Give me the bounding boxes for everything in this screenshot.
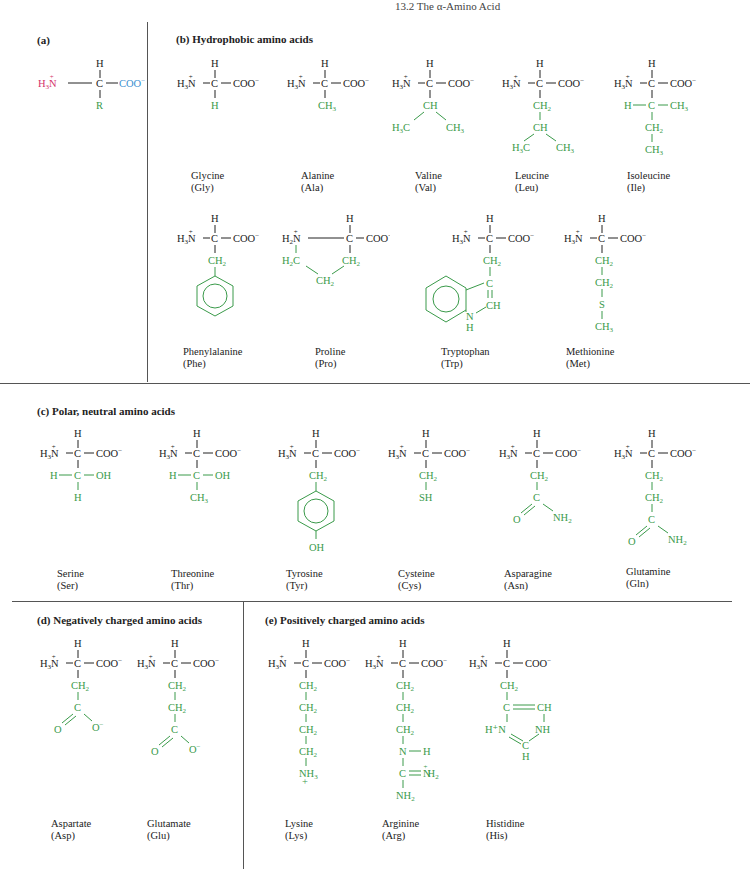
threonine-label: Threonine(Thr) <box>171 568 214 592</box>
svg-text:C: C <box>74 658 81 669</box>
svg-text:CH2: CH2 <box>595 277 614 290</box>
svg-text:H: H <box>302 638 310 649</box>
svg-text:C: C <box>536 78 543 89</box>
glycine-structure: H H3N+ C COO− H <box>175 55 275 115</box>
svg-text:COO−: COO− <box>670 77 696 89</box>
svg-text:COO−: COO− <box>233 77 259 89</box>
glutamine-label: Glutamine(Gln) <box>626 566 670 590</box>
svg-text:CH3: CH3 <box>595 321 614 334</box>
svg-text:H3N+: H3N+ <box>38 73 57 91</box>
svg-text:H: H <box>598 213 606 224</box>
svg-text:H3N+: H3N+ <box>40 443 59 461</box>
svg-text:COO−: COO− <box>324 657 350 669</box>
proline-structure: H H2N+ C COO− H2C CH2 CH2 <box>280 210 390 290</box>
arginine-structure: H H3N+ C COO− CH2 CH2 CH2 N H C N+H2 NH2 <box>363 635 473 805</box>
svg-text:COO−: COO− <box>670 447 696 459</box>
svg-text:H: H <box>466 322 474 333</box>
glutamate-structure: H H3N+ C COO− CH2 CH2 C O O− <box>135 635 235 760</box>
svg-text:H: H <box>624 100 632 111</box>
svg-text:H: H <box>169 470 177 481</box>
arginine-label: Arginine(Arg) <box>382 818 419 842</box>
aspartate-label: Aspartate(Asp) <box>51 818 91 842</box>
serine-structure: H H3N+ C COO− H C OH H <box>38 425 138 505</box>
svg-text:CH2: CH2 <box>645 470 664 483</box>
histidine-structure: H H3N+ C COO− CH2 C CH H⁺N NH C H <box>467 635 587 760</box>
glutamate-label: Glutamate(Glu) <box>147 818 191 842</box>
svg-text:CH2: CH2 <box>168 680 187 693</box>
tryptophan-structure: H H3N+ C COO− CH2 C CH NH <box>410 210 540 335</box>
svg-text:O−: O− <box>189 743 201 755</box>
svg-text:C: C <box>598 233 605 244</box>
svg-text:CH2: CH2 <box>316 275 335 288</box>
cysteine-structure: H H3N+ C COO− CH2 SH <box>386 425 486 505</box>
svg-text:S: S <box>599 299 605 310</box>
svg-text:C: C <box>211 233 218 244</box>
svg-text:H: H <box>486 213 494 224</box>
svg-text:H3N+: H3N+ <box>564 228 583 246</box>
glutamine-structure: H H3N+ C COO− CH2 CH2 C O NH2 <box>612 425 722 550</box>
svg-text:H: H <box>533 428 541 439</box>
svg-text:CH2: CH2 <box>396 724 415 737</box>
leucine-structure: H H3N+ C COO− CH2 CH H3C CH3 <box>500 55 600 155</box>
svg-text:H3N+: H3N+ <box>177 228 196 246</box>
svg-text:CH2: CH2 <box>299 746 318 759</box>
svg-text:COO−: COO− <box>366 232 390 244</box>
svg-text:H: H <box>536 58 544 69</box>
svg-text:O: O <box>54 724 62 735</box>
isoleucine-structure: H H3N+ C COO− H C CH3 CH2 CH3 <box>612 55 722 155</box>
svg-text:NH: NH <box>535 724 551 735</box>
svg-text:H: H <box>648 428 656 439</box>
svg-text:COO−: COO− <box>525 657 551 669</box>
svg-text:H: H <box>503 638 511 649</box>
section-c-title: (c) Polar, neutral amino acids <box>37 405 175 417</box>
svg-text:NH2: NH2 <box>396 790 415 803</box>
svg-text:CH2: CH2 <box>299 724 318 737</box>
svg-text:H3N+: H3N+ <box>137 653 156 671</box>
svg-text:H: H <box>74 492 82 503</box>
svg-text:CH2: CH2 <box>645 492 664 505</box>
svg-text:H3N+: H3N+ <box>40 653 59 671</box>
svg-text:C: C <box>74 470 81 481</box>
alanine-label: Alanine(Ala) <box>301 170 334 194</box>
section-d-title: (d) Negatively charged amino acids <box>37 614 202 626</box>
svg-text:CH: CH <box>486 300 501 311</box>
svg-text:H3C: H3C <box>512 142 530 155</box>
svg-text:NH2: NH2 <box>668 534 687 547</box>
svg-text:H3N+: H3N+ <box>388 443 407 461</box>
svg-text:H3N+: H3N+ <box>268 653 287 671</box>
svg-text:CH: CH <box>537 702 552 713</box>
svg-text:H2C: H2C <box>282 255 300 268</box>
svg-text:H: H <box>171 638 179 649</box>
svg-text:CH3: CH3 <box>190 492 209 505</box>
svg-text:COO−: COO− <box>119 77 145 89</box>
svg-text:CH2: CH2 <box>71 680 90 693</box>
svg-text:H: H <box>312 428 320 439</box>
svg-text:H3N+: H3N+ <box>614 73 633 91</box>
tyrosine-structure: H H3N+ C COO− CH2 OH <box>276 425 376 560</box>
serine-label: Serine(Ser) <box>57 568 84 592</box>
svg-text:C: C <box>171 658 178 669</box>
svg-text:R: R <box>96 100 103 111</box>
svg-text:CH3: CH3 <box>556 142 575 155</box>
svg-text:H3N+: H3N+ <box>159 443 178 461</box>
svg-text:C: C <box>312 448 319 459</box>
svg-text:C: C <box>399 768 406 779</box>
svg-text:COO−: COO− <box>233 232 259 244</box>
methionine-label: Methionine(Met) <box>566 346 614 370</box>
valine-label: Valine(Val) <box>415 170 442 194</box>
cysteine-label: Cysteine(Cys) <box>398 568 435 592</box>
lysine-label: Lysine(Lys) <box>285 818 313 842</box>
svg-text:CH2: CH2 <box>309 470 328 483</box>
svg-text:C: C <box>193 448 200 459</box>
svg-text:N+H2: N+H2 <box>423 763 439 781</box>
svg-text:CH3: CH3 <box>318 100 337 113</box>
svg-text:H3N+: H3N+ <box>278 443 297 461</box>
svg-text:C: C <box>486 233 493 244</box>
svg-text:H: H <box>50 470 58 481</box>
svg-text:O: O <box>151 746 159 757</box>
histidine-label: Histidine(His) <box>486 818 525 842</box>
svg-text:CH2: CH2 <box>500 680 519 693</box>
svg-text:C: C <box>302 658 309 669</box>
svg-text:COO−: COO− <box>421 657 447 669</box>
svg-text:C: C <box>96 78 103 89</box>
